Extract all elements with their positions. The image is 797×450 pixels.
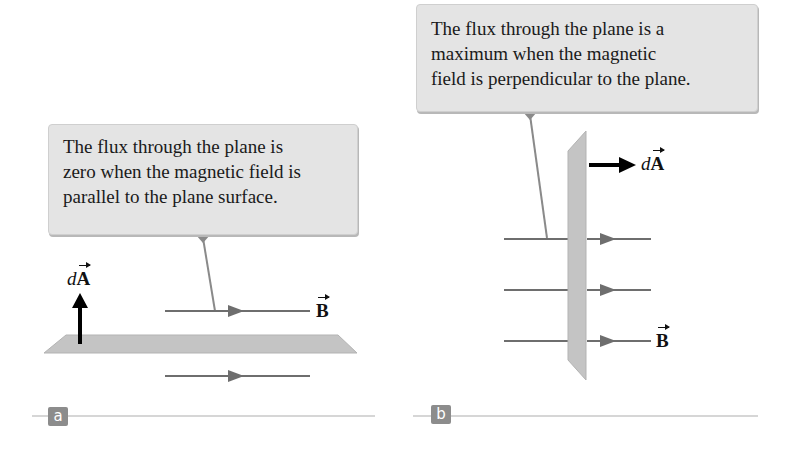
panel-tag-a: a (48, 407, 68, 426)
panel-a-graphics (32, 235, 375, 416)
area-vector-label-a: dA (67, 268, 90, 290)
area-vector-b (589, 157, 636, 173)
field-arrowhead-icon (600, 233, 616, 245)
vector-symbol-B: B (316, 300, 329, 321)
callout-panel-a: The flux through the plane is zero when … (48, 124, 358, 235)
vector-symbol-B: B (656, 330, 669, 351)
callout-a-leader-line (203, 238, 215, 311)
panel-tag-b: b (431, 405, 451, 424)
field-vector-label-a: B (316, 300, 329, 322)
arrow-right-icon (619, 157, 636, 173)
arrow-up-icon (72, 293, 88, 308)
area-vector-label-b: dA (641, 153, 664, 175)
vector-symbol-A: A (651, 153, 665, 174)
callout-a-line-2: zero when the magnetic field is (63, 159, 345, 184)
field-arrowhead-icon (228, 305, 244, 317)
plane-vertical (568, 131, 586, 380)
callout-b-line-2: maximum when the magnetic (431, 41, 745, 66)
field-line-3 (587, 335, 651, 347)
field-arrowhead-icon (228, 370, 244, 382)
field-line-1 (587, 233, 651, 245)
field-line-above-plane (165, 305, 310, 317)
field-line-2 (587, 284, 651, 296)
plane-horizontal (44, 335, 357, 353)
differential-d: d (67, 268, 77, 289)
differential-d: d (641, 153, 651, 174)
field-arrowhead-icon (600, 284, 616, 296)
callout-a-line-1: The flux through the plane is (63, 134, 345, 159)
callout-a-line-3: parallel to the plane surface. (63, 184, 345, 209)
field-line-below-plane (165, 370, 310, 382)
field-vector-label-b: B (656, 330, 669, 352)
field-arrowhead-icon (600, 335, 616, 347)
callout-b-leader-line (530, 115, 547, 238)
callout-panel-b: The flux through the plane is a maximum … (416, 4, 758, 112)
callout-b-line-1: The flux through the plane is a (431, 16, 745, 41)
panel-b-graphics (413, 112, 758, 416)
callout-b-line-3: field is perpendicular to the plane. (431, 66, 745, 91)
vector-symbol-A: A (77, 268, 91, 289)
